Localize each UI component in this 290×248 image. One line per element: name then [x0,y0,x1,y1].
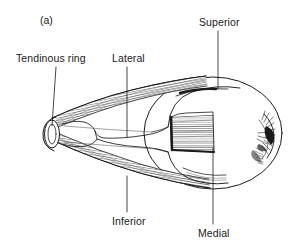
label-tendinous-ring: Tendinous ring [16,52,86,64]
panel-letter: (a) [40,14,53,26]
label-superior: Superior [199,16,240,28]
anatomy-figure-panel-a: (a) Tendinous ring Lateral Superior Infe… [0,0,290,248]
medial-rectus-block [171,112,214,152]
label-lateral: Lateral [112,52,145,64]
label-inferior: Inferior [112,215,145,227]
label-medial: Medial [198,227,230,239]
muscle-cone-drawing [0,0,290,248]
